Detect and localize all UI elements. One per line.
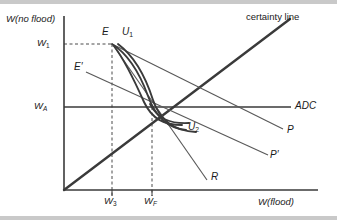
line-label-adc: ADC	[295, 101, 316, 111]
y-tick-wa-sub: A	[43, 105, 47, 112]
prime-mark-p: ′	[277, 149, 279, 160]
line-label-p: P	[287, 125, 294, 135]
line-label-certainty: certainty line	[246, 12, 299, 22]
curve-u2-sub: 2	[195, 126, 199, 133]
y-tick-w1-base: W	[37, 37, 46, 48]
x-tick-w3-base: W	[104, 195, 113, 206]
x-tick-w3-sub: 3	[113, 200, 117, 207]
x-tick-label-wf: WF	[144, 196, 157, 206]
point-e-prime-base: E	[74, 61, 81, 72]
y-tick-wa-base: W	[34, 100, 43, 111]
x-tick-wf-sub: F	[153, 200, 157, 207]
point-label-e-prime: E′	[74, 62, 83, 72]
figure-container: W(no flood) W(flood) W1 WA W3 WF E E′ U1…	[0, 0, 337, 220]
y-tick-label-w1: W1	[37, 38, 50, 48]
x-tick-wf-base: W	[144, 195, 153, 206]
axes-group	[64, 16, 318, 190]
certainty-line	[64, 19, 290, 190]
x-axis-title: W(flood)	[258, 197, 294, 207]
line-label-p-prime: P′	[270, 150, 279, 160]
curve-label-u1: U1	[122, 27, 133, 37]
prime-mark-e: ′	[81, 61, 83, 72]
curve-label-u2: U2	[188, 122, 199, 132]
curve-u1-sub: 1	[129, 31, 133, 38]
line-p-prime-base: P	[270, 149, 277, 160]
p-prime-line	[86, 72, 268, 155]
y-tick-label-wa: WA	[34, 101, 47, 111]
x-tick-label-w3: W3	[104, 196, 117, 206]
point-label-e: E	[102, 27, 109, 37]
plot-canvas	[0, 0, 337, 220]
line-label-r: R	[211, 172, 218, 182]
y-tick-w1-sub: 1	[46, 42, 50, 49]
y-axis-title: W(no flood)	[6, 14, 55, 24]
